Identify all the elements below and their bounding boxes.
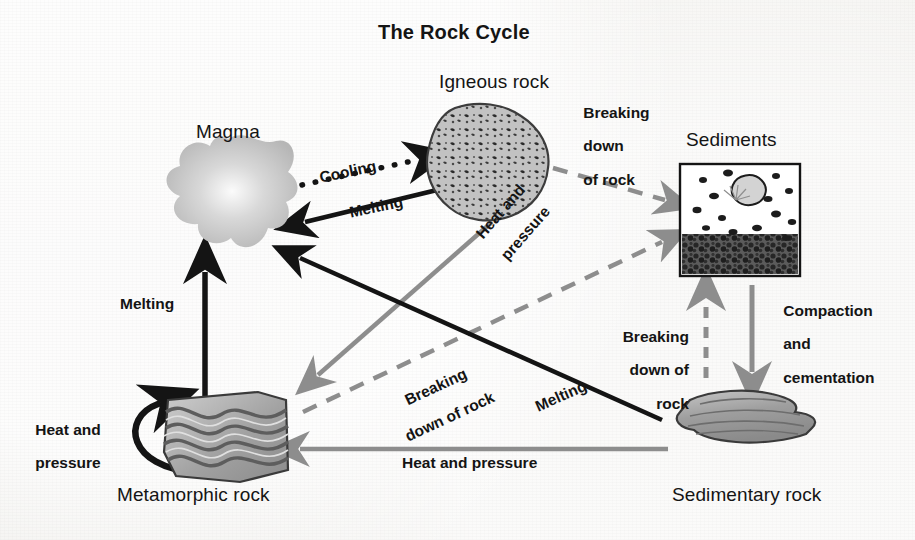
node-label-metamorphic: Metamorphic rock [117, 485, 270, 506]
rock-cycle-diagram: The Rock Cycle Igneous rock Magma Sedime… [0, 0, 915, 540]
node-art-magma [167, 135, 298, 247]
node-label-magma: Magma [196, 122, 260, 143]
compaction-line-1: Compaction [783, 302, 873, 319]
breaking-right-line-2: down of [630, 361, 689, 378]
heat-pressure-left-line-2: pressure [35, 454, 100, 471]
node-art-sediments [680, 164, 800, 276]
node-art-metamorphic [164, 392, 288, 482]
edge-label-heat-pressure-left: Heat and pressure [18, 405, 101, 489]
heat-pressure-left-line-1: Heat and [35, 421, 100, 438]
edge-label-breaking-down-top: Breaking down of rock [566, 88, 650, 205]
breaking-right-line-3: rock [656, 395, 689, 412]
node-label-igneous: Igneous rock [439, 72, 549, 93]
compaction-line-3: cementation [783, 369, 874, 386]
edge-label-heat-pressure-bottom: Heat and pressure [402, 455, 537, 472]
node-label-sedimentary: Sedimentary rock [672, 485, 821, 506]
breaking-line-1: Breaking [583, 104, 649, 121]
breaking-line-3: of rock [583, 171, 635, 188]
diagram-title: The Rock Cycle [378, 22, 530, 44]
node-label-sediments: Sediments [686, 130, 777, 151]
compaction-line-2: and [783, 335, 811, 352]
edge-label-compaction-cementation: Compaction and cementation [766, 286, 875, 403]
edge-label-melting-left: Melting [120, 296, 174, 313]
breaking-line-2: down [583, 137, 623, 154]
breaking-right-line-1: Breaking [623, 328, 689, 345]
edge-label-breaking-down-right: Breaking down of rock [601, 312, 689, 429]
